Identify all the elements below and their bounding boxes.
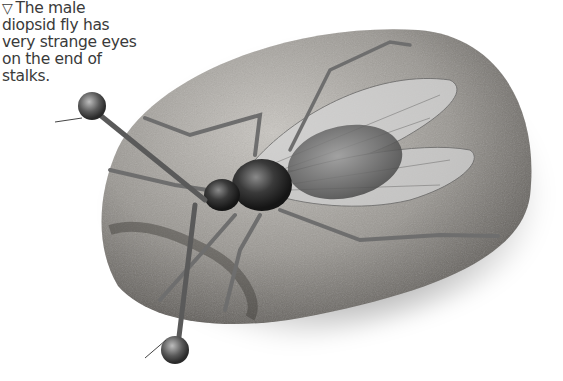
triangle-marker-icon: ▽ xyxy=(2,0,12,16)
illustration-page: ▽The male diopsid fly has very strange e… xyxy=(0,0,563,381)
head xyxy=(204,179,240,211)
caption-text: The male diopsid fly has very strange ey… xyxy=(2,0,137,85)
eye-upper xyxy=(78,92,106,120)
thorax xyxy=(232,159,292,211)
caption: ▽The male diopsid fly has very strange e… xyxy=(2,0,142,85)
bristle-upper xyxy=(55,118,82,122)
